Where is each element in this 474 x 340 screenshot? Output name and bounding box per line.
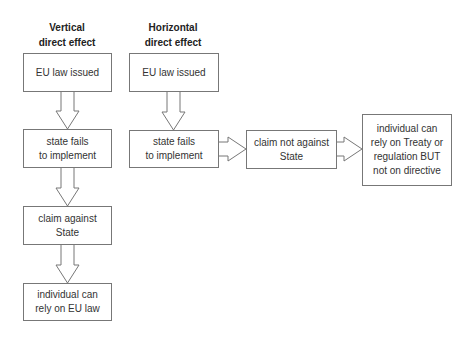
vertical-step-eu-law-issued: EU law issued	[23, 53, 112, 92]
step-text: claim not against	[254, 136, 329, 150]
step-text: rely on Treaty or	[371, 136, 443, 150]
step-text: EU law issued	[36, 66, 99, 80]
step-text: regulation BUT	[371, 150, 443, 164]
down-arrow-icon	[56, 167, 79, 206]
down-arrow-icon	[56, 244, 79, 283]
down-arrow-icon	[56, 91, 79, 129]
right-arrow-icon	[336, 137, 362, 161]
step-text: state fails	[145, 135, 202, 149]
horizontal-step-eu-law-issued: EU law issued	[129, 53, 219, 92]
step-text: State	[254, 150, 329, 164]
horizontal-step-claim-not-against-state: claim not againstState	[246, 130, 337, 169]
step-text: state fails	[39, 135, 96, 149]
down-arrow-icon	[162, 91, 185, 130]
vertical-step-claim-against-state: claim againstState	[23, 206, 112, 245]
step-text: not on directive	[371, 164, 443, 178]
step-text: EU law issued	[142, 66, 205, 80]
right-arrow-icon	[218, 137, 246, 161]
vertical-step-state-fails: state failsto implement	[23, 129, 112, 168]
step-text: individual can	[35, 288, 99, 302]
step-text: to implement	[39, 149, 96, 163]
step-text: rely on EU law	[35, 302, 99, 316]
step-text: individual can	[371, 122, 443, 136]
vertical-step-rely-on-eu-law: individual canrely on EU law	[23, 283, 112, 321]
horizontal-step-state-fails: state failsto implement	[129, 130, 219, 168]
horizontal-step-rely-not-on-directive: individual can rely on Treaty or regulat…	[362, 114, 452, 186]
step-text: to implement	[145, 149, 202, 163]
step-text: claim against	[38, 212, 96, 226]
step-text: State	[38, 226, 96, 240]
